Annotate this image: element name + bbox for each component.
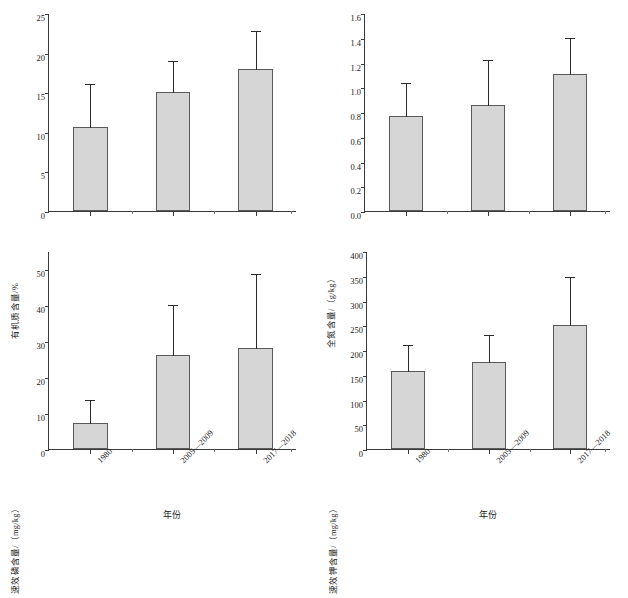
y-tick-label: 0.0 — [327, 212, 365, 221]
x-tick-mark-minor — [448, 449, 449, 452]
x-tick-mark-minor — [291, 211, 292, 214]
error-bar-cap — [565, 277, 575, 278]
bar — [553, 74, 587, 211]
y-tick-label: 1.2 — [327, 64, 365, 73]
error-bar-cap — [251, 274, 261, 275]
x-tick-mark-minor — [447, 211, 448, 214]
x-tick-label: 2005—2009 — [494, 458, 501, 465]
y-tick-label: 10 — [11, 414, 49, 423]
x-axis-title: 年份 — [48, 508, 296, 521]
x-tick-mark — [570, 211, 571, 216]
error-bar-cap — [85, 84, 95, 85]
y-tick-label: 40 — [11, 306, 49, 315]
y-tick-label: 15 — [11, 93, 49, 102]
error-bar-cap — [403, 345, 413, 346]
bar — [553, 325, 587, 449]
x-tick-label: 2005—2009 — [178, 458, 185, 465]
y-tick-label: 20 — [11, 378, 49, 387]
y-tick-label: 20 — [11, 54, 49, 63]
x-tick-mark-minor — [214, 449, 215, 452]
error-bar-cap — [168, 61, 178, 62]
y-tick-label: 250 — [329, 327, 367, 336]
x-tick-mark — [406, 211, 407, 216]
error-bar — [408, 345, 409, 372]
error-bar-cap — [565, 38, 575, 39]
error-bar — [173, 61, 174, 93]
error-bar-cap — [85, 400, 95, 401]
bar — [389, 116, 423, 211]
error-bar — [570, 277, 571, 327]
x-tick-label: 2017—2018 — [575, 458, 582, 465]
y-axis-title: 速效磷含量/（mg/kg） — [8, 450, 20, 598]
y-tick-label: 5 — [11, 173, 49, 182]
error-bar — [256, 274, 257, 350]
panel-total-nitrogen: 全氮含量/（g/kg） 0.00.20.40.60.81.01.21.41.6 — [314, 0, 628, 262]
error-bar-cap — [168, 305, 178, 306]
bar — [472, 362, 506, 449]
x-tick-mark — [256, 449, 257, 454]
y-tick-label: 400 — [329, 252, 367, 261]
x-tick-mark — [90, 211, 91, 216]
y-tick-label: 0.4 — [327, 163, 365, 172]
y-tick-label: 0 — [329, 450, 367, 459]
plot-area-2: 01020304050 — [48, 252, 296, 450]
x-tick-mark-minor — [132, 449, 133, 452]
error-bar — [90, 400, 91, 424]
error-bar — [90, 84, 91, 128]
x-axis-title: 年份 — [366, 508, 610, 521]
y-axis-title-wrap-0: 有机质含量/% — [8, 14, 22, 212]
x-tick-mark — [256, 211, 257, 216]
y-tick-label: 150 — [329, 376, 367, 385]
error-bar-cap — [401, 83, 411, 84]
x-tick-mark — [173, 211, 174, 216]
y-tick-label: 0.8 — [327, 113, 365, 122]
x-tick-label: 1980 — [95, 458, 102, 465]
error-bar — [256, 31, 257, 71]
error-bar — [489, 335, 490, 364]
x-tick-mark-minor — [530, 449, 531, 452]
y-tick-label: 50 — [11, 270, 49, 279]
y-tick-label: 50 — [329, 426, 367, 435]
x-tick-mark-minor — [605, 211, 606, 214]
panel-organic-matter: 有机质含量/% 0510152025 — [0, 0, 314, 262]
error-bar-cap — [484, 335, 494, 336]
y-tick-label: 25 — [11, 14, 49, 23]
x-tick-label: 1980 — [413, 458, 420, 465]
y-tick-label: 0 — [11, 212, 49, 221]
y-tick-label: 350 — [329, 277, 367, 286]
error-bar-cap — [483, 60, 493, 61]
plot-area-0: 0510152025 — [48, 14, 296, 212]
error-bar — [488, 60, 489, 106]
x-tick-mark-minor — [291, 449, 292, 452]
bar — [238, 348, 273, 449]
error-bar — [173, 305, 174, 356]
y-tick-label: 100 — [329, 401, 367, 410]
error-bar-cap — [251, 31, 261, 32]
y-tick-label: 0 — [11, 450, 49, 459]
x-tick-mark-minor — [529, 211, 530, 214]
y-tick-label: 1.6 — [327, 14, 365, 23]
bar — [391, 371, 425, 449]
x-tick-mark — [570, 449, 571, 454]
bar — [471, 105, 505, 211]
x-tick-mark — [489, 449, 490, 454]
x-tick-mark-minor — [214, 211, 215, 214]
x-tick-mark-minor — [605, 449, 606, 452]
x-tick-mark — [408, 449, 409, 454]
error-bar — [570, 38, 571, 75]
bar — [73, 423, 108, 449]
y-axis-title: 速效钾含量/（mg/kg） — [326, 450, 338, 598]
x-tick-mark — [90, 449, 91, 454]
x-tick-mark — [488, 211, 489, 216]
y-tick-label: 0.6 — [327, 138, 365, 147]
plot-area-1: 0.00.20.40.60.81.01.21.41.6 — [364, 14, 610, 212]
x-tick-mark-minor — [132, 211, 133, 214]
y-tick-label: 30 — [11, 342, 49, 351]
bar — [156, 92, 191, 211]
error-bar — [406, 83, 407, 116]
y-tick-label: 1.4 — [327, 39, 365, 48]
bar — [156, 355, 191, 449]
bar — [73, 127, 108, 211]
plot-area-3: 050100150200250300350400 — [366, 252, 610, 450]
